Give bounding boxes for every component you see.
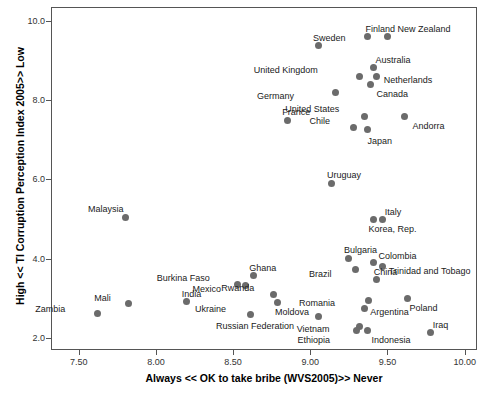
data-point[interactable] bbox=[315, 313, 322, 320]
data-point-label: Brazil bbox=[309, 269, 332, 279]
data-point-label: China bbox=[374, 267, 398, 277]
data-point-label: Canada bbox=[377, 89, 409, 99]
y-tick-mark bbox=[46, 100, 51, 101]
data-point[interactable] bbox=[370, 216, 377, 223]
data-point[interactable] bbox=[364, 327, 371, 334]
data-point-label: Germany bbox=[257, 91, 294, 101]
x-tick-label: 10.00 bbox=[453, 357, 476, 367]
y-tick-mark bbox=[46, 338, 51, 339]
data-point[interactable] bbox=[122, 214, 129, 221]
data-point-label: Ghana bbox=[249, 263, 276, 273]
data-point-label: Korea, Rep. bbox=[369, 224, 417, 234]
y-tick-label: 2.0 bbox=[32, 333, 45, 343]
data-point[interactable] bbox=[125, 300, 132, 307]
data-point[interactable] bbox=[401, 113, 408, 120]
y-tick-mark bbox=[46, 21, 51, 22]
data-point[interactable] bbox=[370, 259, 377, 266]
data-point-label: Netherlands bbox=[384, 75, 433, 85]
data-point[interactable] bbox=[352, 266, 359, 273]
data-point-label: Romania bbox=[299, 298, 335, 308]
data-point-label: Colombia bbox=[379, 251, 417, 261]
data-point-label: Argentina bbox=[370, 307, 409, 317]
data-point[interactable] bbox=[361, 113, 368, 120]
data-point-label: Poland bbox=[410, 303, 438, 313]
data-point[interactable] bbox=[332, 89, 339, 96]
data-point-label: Moldova bbox=[275, 307, 309, 317]
data-point[interactable] bbox=[350, 124, 357, 131]
scatter-chart: FinlandNew ZealandSwedenAustraliaUnited … bbox=[0, 0, 489, 402]
y-tick-label: 10.0 bbox=[27, 16, 45, 26]
y-tick-mark bbox=[46, 259, 51, 260]
data-point-label: Trinidad and Tobago bbox=[389, 266, 471, 276]
x-tick-mark bbox=[156, 350, 157, 355]
y-tick-label: 6.0 bbox=[32, 174, 45, 184]
data-point-label: Ethiopia bbox=[298, 335, 331, 345]
data-point-label: New Zealand bbox=[397, 24, 450, 34]
plot-area: FinlandNew ZealandSwedenAustraliaUnited … bbox=[51, 7, 477, 350]
data-point[interactable] bbox=[364, 33, 371, 40]
y-axis-title: High << TI Corruption Perception Index 2… bbox=[14, 6, 26, 346]
data-point-label: Finland bbox=[365, 24, 395, 34]
data-point-label: Mali bbox=[94, 293, 111, 303]
data-point-label: France bbox=[282, 107, 310, 117]
data-point[interactable] bbox=[367, 81, 374, 88]
data-point-label: Japan bbox=[367, 136, 392, 146]
x-tick-label: 7.50 bbox=[70, 357, 88, 367]
y-tick-label: 8.0 bbox=[32, 95, 45, 105]
data-point-label: Burkina Faso bbox=[157, 273, 210, 283]
data-point-label: Bulgaria bbox=[344, 245, 377, 255]
data-point[interactable] bbox=[183, 298, 190, 305]
data-point-label: United Kingdom bbox=[254, 65, 318, 75]
data-point[interactable] bbox=[356, 73, 363, 80]
x-axis-title: Always << OK to take bribe (WVS2005)>> N… bbox=[51, 372, 477, 384]
data-point[interactable] bbox=[270, 291, 277, 298]
data-point-label: Australia bbox=[376, 55, 411, 65]
data-point[interactable] bbox=[94, 310, 101, 317]
data-point[interactable] bbox=[247, 311, 254, 318]
data-point[interactable] bbox=[404, 295, 411, 302]
x-tick-mark bbox=[233, 350, 234, 355]
data-point-label: Zambia bbox=[35, 304, 65, 314]
x-tick-label: 9.00 bbox=[302, 357, 320, 367]
data-point[interactable] bbox=[370, 64, 377, 71]
data-point-label: Indonesia bbox=[371, 335, 410, 345]
data-point[interactable] bbox=[373, 73, 380, 80]
y-tick-mark bbox=[46, 179, 51, 180]
x-tick-mark bbox=[310, 350, 311, 355]
y-tick-label: 4.0 bbox=[32, 254, 45, 264]
data-point-label: Vietnam bbox=[297, 324, 330, 334]
data-point-label: Malaysia bbox=[88, 204, 124, 214]
data-point-label: Russian Federation bbox=[216, 321, 294, 331]
data-point-label: Rwanda bbox=[221, 283, 254, 293]
data-point[interactable] bbox=[345, 255, 352, 262]
data-point-label: Iraq bbox=[433, 320, 449, 330]
data-point[interactable] bbox=[315, 42, 322, 49]
data-point[interactable] bbox=[361, 305, 368, 312]
data-point[interactable] bbox=[284, 117, 291, 124]
data-point-label: Andorra bbox=[412, 121, 444, 131]
data-point-label: Chile bbox=[310, 116, 331, 126]
x-tick-mark bbox=[387, 350, 388, 355]
x-tick-label: 8.00 bbox=[147, 357, 165, 367]
data-point-label: Sweden bbox=[313, 33, 346, 43]
x-tick-label: 8.50 bbox=[224, 357, 242, 367]
data-point-label: Ukraine bbox=[195, 304, 226, 314]
x-tick-mark bbox=[79, 350, 80, 355]
data-point-label: India bbox=[182, 289, 202, 299]
data-point-label: Italy bbox=[385, 207, 402, 217]
data-point[interactable] bbox=[384, 33, 391, 40]
data-point[interactable] bbox=[328, 180, 335, 187]
data-point-label: Uruguay bbox=[327, 170, 361, 180]
data-point[interactable] bbox=[353, 327, 360, 334]
x-tick-label: 9.50 bbox=[379, 357, 397, 367]
x-tick-mark bbox=[465, 350, 466, 355]
data-point[interactable] bbox=[364, 126, 371, 133]
data-point[interactable] bbox=[274, 299, 281, 306]
data-point[interactable] bbox=[365, 297, 372, 304]
